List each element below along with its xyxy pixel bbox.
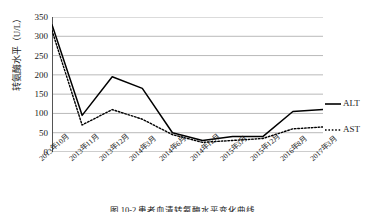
x-tick-label: 2013年10月	[38, 133, 70, 163]
legend-label-alt: ALT	[343, 98, 360, 108]
chart-figure: 转氨酶水平（U/L） 050100150200250300350 2013年10…	[0, 0, 365, 212]
x-tick-label: 2015年3月	[219, 135, 248, 162]
x-tick-label: 2014年12月	[189, 133, 221, 163]
x-axis-tick-labels: 2013年10月2013年11月2013年12月2014年3月2014年6月20…	[0, 0, 365, 212]
x-tick-label: 2015年12月	[249, 133, 281, 163]
x-tick-label: 2013年12月	[98, 133, 130, 163]
legend-label-ast: AST	[343, 124, 360, 134]
figure-caption: 图 10-2 患者血清转氨酶水平变化曲线	[0, 203, 365, 212]
x-tick-label: 2013年11月	[68, 133, 100, 163]
legend-swatch-ast	[325, 126, 341, 134]
x-tick-label: 2017年3月	[309, 135, 338, 162]
x-tick-label: 2014年3月	[128, 135, 157, 162]
x-tick-label: 2014年6月	[158, 135, 187, 162]
legend-swatch-alt	[325, 100, 341, 108]
x-tick-label: 2016年8月	[279, 135, 308, 162]
